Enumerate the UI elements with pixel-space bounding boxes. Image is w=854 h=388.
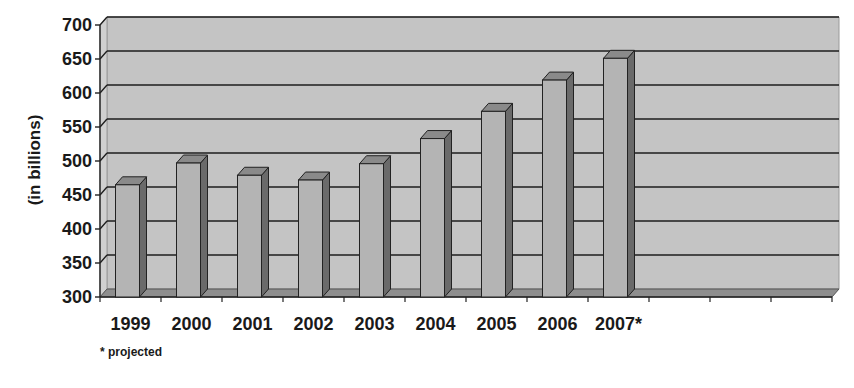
- bar-2001: [238, 167, 269, 297]
- y-axis-title: (in billions): [25, 115, 44, 206]
- bar-2006: [543, 72, 574, 297]
- floor: [100, 289, 839, 297]
- y-tick-label: 450: [62, 185, 92, 205]
- y-tick-label: 550: [62, 117, 92, 137]
- bar-2003: [360, 156, 391, 297]
- bar-1999: [116, 177, 147, 297]
- y-tick-label: 600: [62, 83, 92, 103]
- y-tick-label: 650: [62, 49, 92, 69]
- x-tick-label: 2006: [537, 314, 577, 334]
- y-tick-label: 300: [62, 287, 92, 307]
- y-tick-label: 400: [62, 219, 92, 239]
- x-tick-label: 2002: [293, 314, 333, 334]
- footnote-projected: * projected: [100, 345, 162, 359]
- x-tick-label: 2000: [171, 314, 211, 334]
- y-tick-label: 700: [62, 15, 92, 35]
- x-tick-label: 2005: [476, 314, 516, 334]
- bar-2004: [421, 131, 452, 297]
- bar-2007: [604, 50, 635, 297]
- bar-chart: 300350400450500550600650700 199920002001…: [0, 0, 854, 388]
- x-tick-label: 2003: [354, 314, 394, 334]
- x-tick-label: 2001: [232, 314, 272, 334]
- bar-2005: [482, 103, 513, 297]
- y-tick-label: 350: [62, 253, 92, 273]
- y-tick-label: 500: [62, 151, 92, 171]
- bar-2000: [177, 155, 208, 297]
- x-tick-label: 1999: [110, 314, 150, 334]
- x-tick-label: 2007*: [595, 314, 642, 334]
- bar-2002: [299, 172, 330, 297]
- x-tick-label: 2004: [415, 314, 455, 334]
- x-axis-labels: 199920002001200220032004200520062007*: [110, 314, 642, 334]
